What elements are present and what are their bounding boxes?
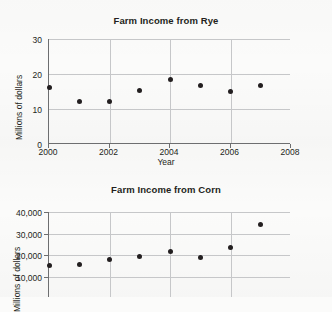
x-tick-label-rye-2002: 2002 (89, 147, 129, 157)
gridline-corn-2002 (110, 212, 111, 297)
x-tick-label-rye-2004: 2004 (149, 147, 189, 157)
chart-title-rye: Farm Income from Rye (0, 15, 332, 26)
y-tick-corn-30000 (44, 234, 48, 235)
gridline-corn-2006 (231, 212, 232, 297)
y-tick-corn-40000 (44, 212, 48, 213)
data-point-corn-2006 (228, 245, 233, 250)
x-tick-label-rye-2000: 2000 (28, 147, 68, 157)
y-tick-corn-10000 (44, 277, 48, 278)
x-axis-title-rye: Year (0, 157, 332, 167)
data-point-rye-2005 (198, 83, 203, 88)
plot-area-rye (48, 39, 290, 144)
y-tick-label-corn-20000: 20,000 (4, 251, 42, 261)
chart-title-corn: Farm Income from Corn (0, 184, 332, 195)
data-point-rye-2002 (107, 99, 112, 104)
plot-area-corn (48, 212, 290, 297)
data-point-rye-2001 (77, 99, 82, 104)
chart-farm-income-corn: Farm Income from Corn 40,000 30,000 20,0… (0, 180, 332, 297)
chart-farm-income-rye: Farm Income from Rye 30 20 10 0 Millions… (0, 0, 332, 180)
data-point-rye-2007 (258, 83, 263, 88)
y-tick-label-corn-30000: 30,000 (4, 230, 42, 240)
x-tick-label-rye-2006: 2006 (210, 147, 250, 157)
y-tick-label-rye-30: 30 (18, 35, 42, 45)
data-point-rye-2003 (137, 88, 142, 93)
data-point-corn-2007 (258, 222, 263, 227)
y-axis-title-corn: Millions of dollars (12, 247, 22, 312)
data-point-rye-2000 (47, 85, 52, 90)
y-tick-corn-20000 (44, 255, 48, 256)
gridline-rye-2004 (170, 39, 171, 143)
data-point-corn-2001 (77, 262, 82, 267)
y-tick-label-corn-10000: 10,000 (4, 273, 42, 283)
y-tick-label-corn-40000: 40,000 (4, 208, 42, 218)
data-point-rye-2004 (168, 77, 173, 82)
data-point-corn-2005 (198, 255, 203, 260)
data-point-corn-2002 (107, 257, 112, 262)
data-point-corn-2004 (168, 249, 173, 254)
data-point-corn-2000 (47, 263, 52, 268)
gridline-rye-2002 (110, 39, 111, 143)
data-point-rye-2006 (228, 89, 233, 94)
gridline-corn-2004 (170, 212, 171, 297)
data-point-corn-2003 (137, 254, 142, 259)
y-axis-title-rye: Millions of dollars (14, 75, 24, 140)
x-tick-label-rye-2008: 2008 (270, 147, 310, 157)
